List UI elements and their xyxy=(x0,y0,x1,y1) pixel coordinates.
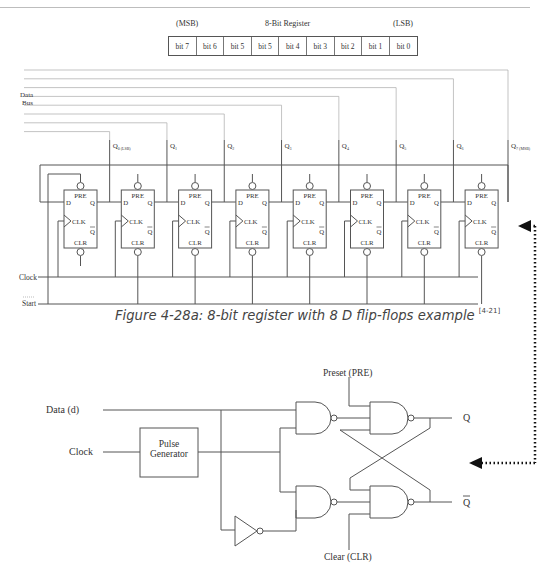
q-pin-label: Q xyxy=(434,199,439,206)
qbar-pin-label: Q xyxy=(90,228,95,235)
output-label: Q4 xyxy=(342,142,349,151)
clr-pin-label: CLR xyxy=(360,239,374,246)
clk-pin-label: CLK xyxy=(187,218,201,225)
qbar-pin-label: Q xyxy=(205,228,210,235)
nand-gate-3 xyxy=(370,402,408,434)
latch-data-label: Data (d) xyxy=(46,404,79,416)
flipflop-array: PREDQCLKQCLRQ0 (LSB)PREDQCLKQCLRQ1PREDQC… xyxy=(38,140,531,304)
clr-bubble xyxy=(249,249,256,256)
clr-bubble xyxy=(77,249,84,256)
clr-pin-label: CLR xyxy=(74,239,88,246)
clr-pin-label: CLR xyxy=(418,239,432,246)
pre-bubble xyxy=(364,183,371,190)
inverter-gate xyxy=(235,516,257,546)
clear-label: Clear (CLR) xyxy=(324,552,372,563)
pre-bubble xyxy=(421,183,428,190)
pre-bubble xyxy=(249,183,256,190)
output-subscript: 1 xyxy=(175,146,177,151)
clk-pin-label: CLK xyxy=(301,218,315,225)
clr-pin-label: CLR xyxy=(188,239,202,246)
clr-bubble xyxy=(478,249,485,256)
qbar-pin-label: Q xyxy=(319,228,324,235)
clr-bubble xyxy=(364,249,371,256)
data-bus-label: Data xyxy=(20,91,34,99)
figure-caption: Figure 4-28a: 8-bit register with 8 D fl… xyxy=(115,307,500,323)
nand-gate-2 xyxy=(296,486,331,518)
dotted-connector xyxy=(469,220,535,469)
flipflop-register-diagram: PREDQCLKQCLRQ0 (LSB)PREDQCLKQCLRQ1PREDQC… xyxy=(0,0,549,567)
caption-text: Figure 4-28a: 8-bit register with 8 D fl… xyxy=(115,308,479,323)
arrow-head-upper xyxy=(518,220,531,232)
output-label: Q5 xyxy=(399,142,406,151)
q-output-label: Q xyxy=(463,412,471,423)
pre-pin-label: PRE xyxy=(74,192,86,199)
data-bus-label: Bus xyxy=(22,99,33,107)
pre-bubble xyxy=(77,183,84,190)
output-subscript: 3 xyxy=(290,146,292,151)
output-subscript: 0 (LSB) xyxy=(118,146,132,151)
d-pin-label: D xyxy=(123,199,128,206)
latch-clock-label: Clock xyxy=(69,446,93,457)
clr-pin-label: CLR xyxy=(303,239,317,246)
arrow-head-lower xyxy=(469,457,482,469)
clr-pin-label: CLR xyxy=(475,239,489,246)
clk-pin-label: CLK xyxy=(473,218,487,225)
pre-pin-label: PRE xyxy=(132,192,144,199)
qbar-pin-label: Q xyxy=(147,228,152,235)
output-label: Q6 xyxy=(456,142,463,151)
pre-pin-label: PRE xyxy=(361,192,373,199)
clr-bubble xyxy=(134,249,141,256)
q-pin-label: Q xyxy=(262,199,267,206)
output-subscript: 4 xyxy=(347,146,349,151)
qbar-pin-label: Q xyxy=(377,228,382,235)
output-label: Q2 xyxy=(227,142,234,151)
output-label: Q7 (MSB) xyxy=(511,142,531,151)
output-subscript: 5 xyxy=(404,146,406,151)
d-pin-label: D xyxy=(467,199,472,206)
pre-bubble xyxy=(306,183,313,190)
output-subscript: 2 xyxy=(232,146,234,151)
pre-pin-label: PRE xyxy=(475,192,487,199)
start-input-label: Start xyxy=(22,299,37,308)
caption-reference: [4-21] xyxy=(479,307,500,315)
output-label: Q3 xyxy=(285,142,292,151)
pulse-generator-label: Generator xyxy=(150,449,189,459)
d-pin-label: D xyxy=(181,199,186,206)
q-pin-label: Q xyxy=(147,199,152,206)
output-subscript: 7 (MSB) xyxy=(516,146,531,151)
pulse-generator-label: Pulse xyxy=(159,439,180,449)
pre-bubble xyxy=(478,183,485,190)
q-pin-label: Q xyxy=(377,199,382,206)
qbar-pin-label: Q xyxy=(491,228,496,235)
nand-gate-4 xyxy=(370,486,408,518)
clk-pin-label: CLK xyxy=(244,218,258,225)
clr-pin-label: CLR xyxy=(131,239,145,246)
pre-bubble xyxy=(134,183,141,190)
clr-bubble xyxy=(421,249,428,256)
gated-d-latch-diagram xyxy=(103,377,452,550)
output-subscript: 6 xyxy=(462,146,464,151)
clk-pin-label: CLK xyxy=(129,218,143,225)
data-bus-lines xyxy=(24,70,508,140)
d-pin-label: D xyxy=(66,199,71,206)
pre-pin-label: PRE xyxy=(189,192,201,199)
d-pin-label: D xyxy=(238,199,243,206)
d-pin-label: D xyxy=(295,199,300,206)
q-pin-label: Q xyxy=(205,199,210,206)
pre-pin-label: PRE xyxy=(418,192,430,199)
clk-pin-label: CLK xyxy=(416,218,430,225)
pre-bubble xyxy=(192,183,199,190)
nand-gate-1 xyxy=(296,402,331,434)
q-pin-label: Q xyxy=(319,199,324,206)
d-pin-label: D xyxy=(353,199,358,206)
qbar-pin-label: Q xyxy=(434,228,439,235)
clr-pin-label: CLR xyxy=(246,239,260,246)
d-pin-label: D xyxy=(410,199,415,206)
clr-bubble xyxy=(192,249,199,256)
output-label: Q1 xyxy=(170,142,177,151)
qbar-output-label: Q xyxy=(463,497,471,508)
clk-pin-label: CLK xyxy=(72,218,86,225)
output-label: Q0 (LSB) xyxy=(113,142,132,151)
q-pin-label: Q xyxy=(491,199,496,206)
clk-pin-label: CLK xyxy=(359,218,373,225)
